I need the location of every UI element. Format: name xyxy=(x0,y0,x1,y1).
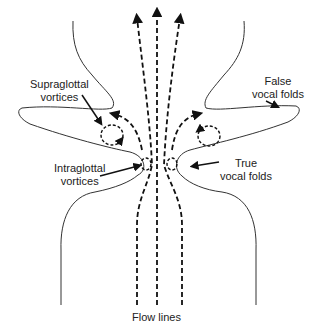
label-line: vocal folds xyxy=(220,170,272,183)
label-line: True xyxy=(220,157,272,170)
label-line: Intraglottal xyxy=(54,162,105,175)
label-false-vocal-folds: False vocal folds xyxy=(252,75,304,101)
flow-line-left-outer xyxy=(114,114,142,150)
label-line: False xyxy=(252,75,304,88)
pointer-false-folds xyxy=(266,101,276,106)
pointer-true-folds xyxy=(194,162,219,166)
label-line: Supraglottal xyxy=(30,78,89,91)
label-flow-lines: Flow lines xyxy=(132,311,181,324)
label-supraglottal-vortices: Supraglottal vortices xyxy=(30,78,89,104)
intraglottal-vortex-right xyxy=(167,158,177,170)
flow-line-left xyxy=(137,18,152,305)
label-true-vocal-folds: True vocal folds xyxy=(220,157,272,183)
label-intraglottal-vortices: Intraglottal vortices xyxy=(54,162,105,188)
pointer-intraglottal xyxy=(100,166,138,176)
flow-line-right-outer xyxy=(172,114,198,150)
label-line: vortices xyxy=(54,175,105,188)
intraglottal-vortex-left xyxy=(141,158,151,170)
label-line: vocal folds xyxy=(252,88,304,101)
flow-line-right xyxy=(164,18,182,305)
label-line: vortices xyxy=(30,91,89,104)
